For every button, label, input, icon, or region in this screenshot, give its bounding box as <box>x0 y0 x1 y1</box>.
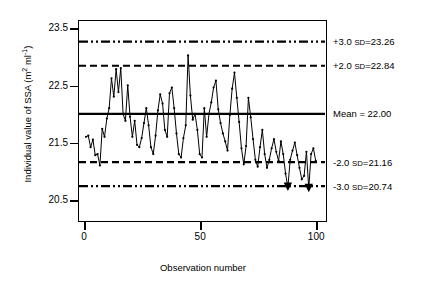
data-point <box>117 91 119 93</box>
data-point <box>138 146 140 148</box>
y-tick-mark <box>70 200 78 201</box>
data-point <box>134 120 136 122</box>
data-point <box>164 129 166 131</box>
data-point <box>120 67 122 69</box>
data-point <box>215 80 217 82</box>
data-point <box>229 114 231 116</box>
data-point <box>303 175 305 177</box>
data-point <box>168 92 170 94</box>
data-point <box>85 136 87 138</box>
data-point <box>208 113 210 115</box>
reference-line-label-plus2sd: +2.0 SD=22.84 <box>333 60 395 72</box>
data-point <box>236 97 238 99</box>
data-series-svg <box>79 21 325 220</box>
data-point <box>136 144 138 146</box>
data-point <box>161 102 163 104</box>
data-point <box>122 113 124 115</box>
data-point <box>143 122 145 124</box>
data-point <box>199 153 201 155</box>
data-point <box>273 138 275 140</box>
x-tick-label: 100 <box>296 232 336 242</box>
data-point <box>266 167 268 169</box>
data-point <box>99 164 101 166</box>
y-tick-mark <box>70 143 78 144</box>
data-point <box>145 107 147 109</box>
data-point <box>231 88 233 90</box>
x-tick-mark <box>84 222 85 230</box>
data-point <box>201 156 203 158</box>
data-point <box>115 68 117 70</box>
data-point <box>141 137 143 139</box>
data-point <box>296 154 298 156</box>
data-point <box>233 72 235 74</box>
data-point <box>298 167 300 169</box>
data-point <box>280 140 282 142</box>
data-point <box>291 150 293 152</box>
data-point <box>310 153 312 155</box>
data-point <box>178 153 180 155</box>
x-tick-label: 50 <box>180 232 220 242</box>
data-point <box>90 146 92 148</box>
y-tick-label: 23.5 <box>22 23 68 33</box>
data-point <box>238 121 240 123</box>
data-point <box>264 153 266 155</box>
data-point <box>271 147 273 149</box>
data-point <box>245 145 247 147</box>
data-point <box>268 159 270 161</box>
data-point <box>254 159 256 161</box>
data-point <box>259 146 261 148</box>
data-point <box>226 150 228 152</box>
plot-area <box>78 20 327 222</box>
data-point <box>101 128 103 130</box>
x-tick-label: 0 <box>64 232 104 242</box>
data-point <box>301 178 303 180</box>
data-point <box>157 109 159 111</box>
data-point <box>222 132 224 134</box>
reference-line-label-plus3sd: +3.0 SD=23.26 <box>333 36 395 48</box>
y-tick-mark <box>70 28 78 29</box>
data-point <box>189 94 191 96</box>
data-point <box>219 122 221 124</box>
data-point <box>275 151 277 153</box>
data-point <box>129 116 131 118</box>
data-point <box>185 124 187 126</box>
x-axis-title: Observation number <box>78 262 328 273</box>
x-tick-mark <box>316 222 317 230</box>
data-point <box>240 147 242 149</box>
data-point <box>187 54 189 56</box>
data-point <box>173 107 175 109</box>
data-point <box>131 136 133 138</box>
control-chart-figure: Individual value of SSA (m2 ml-1) 20.5 2… <box>0 0 425 287</box>
data-point <box>127 84 129 86</box>
data-point <box>171 86 173 88</box>
data-point <box>96 153 98 155</box>
data-point <box>210 101 212 103</box>
data-point <box>277 160 279 162</box>
data-point <box>224 140 226 142</box>
y-axis-tick-labels: 20.5 21.5 22.5 23.5 <box>22 0 68 287</box>
data-point <box>159 93 161 95</box>
data-point <box>261 129 263 131</box>
data-point <box>182 137 184 139</box>
data-point <box>152 153 154 155</box>
data-point <box>243 163 245 165</box>
data-point <box>103 136 105 138</box>
data-point <box>213 86 215 88</box>
data-point <box>217 108 219 110</box>
data-point <box>284 172 286 174</box>
data-point <box>106 117 108 119</box>
reference-line-label-minus3sd: -3.0 SD=20.74 <box>333 181 392 193</box>
data-point <box>315 160 317 162</box>
data-point <box>203 107 205 109</box>
data-point <box>282 153 284 155</box>
data-point <box>194 113 196 115</box>
data-line <box>86 55 316 188</box>
data-point <box>289 159 291 161</box>
data-point <box>294 141 296 143</box>
data-point <box>92 139 94 141</box>
y-tick-label: 21.5 <box>22 138 68 148</box>
data-point <box>206 136 208 138</box>
data-point <box>124 120 126 122</box>
data-point <box>175 132 177 134</box>
data-point <box>108 107 110 109</box>
